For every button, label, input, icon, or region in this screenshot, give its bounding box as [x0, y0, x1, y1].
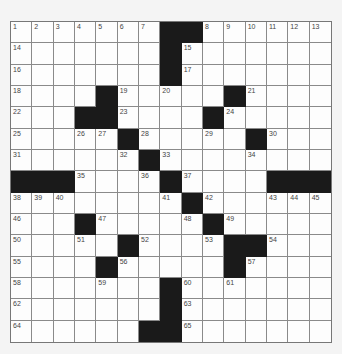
grid-cell[interactable] [54, 278, 75, 299]
grid-cell[interactable]: 41 [160, 193, 181, 214]
grid-cell[interactable] [246, 65, 267, 86]
grid-cell[interactable] [182, 257, 203, 278]
grid-cell[interactable] [96, 193, 117, 214]
grid-cell[interactable] [54, 86, 75, 107]
grid-cell[interactable]: 12 [288, 22, 309, 43]
grid-cell[interactable] [310, 278, 331, 299]
grid-cell[interactable]: 18 [11, 86, 32, 107]
grid-cell[interactable] [288, 214, 309, 235]
grid-cell[interactable]: 60 [182, 278, 203, 299]
grid-cell[interactable] [32, 107, 53, 128]
grid-cell[interactable]: 61 [224, 278, 245, 299]
grid-cell[interactable]: 53 [203, 235, 224, 256]
grid-cell[interactable] [288, 107, 309, 128]
grid-cell[interactable] [118, 43, 139, 64]
grid-cell[interactable] [203, 65, 224, 86]
grid-cell[interactable] [267, 214, 288, 235]
grid-cell[interactable] [32, 257, 53, 278]
grid-cell[interactable] [118, 65, 139, 86]
grid-cell[interactable] [118, 214, 139, 235]
grid-cell[interactable] [54, 43, 75, 64]
grid-cell[interactable] [288, 321, 309, 342]
grid-cell[interactable] [139, 193, 160, 214]
grid-cell[interactable] [96, 171, 117, 192]
grid-cell[interactable] [139, 299, 160, 320]
grid-cell[interactable] [224, 150, 245, 171]
grid-cell[interactable]: 1 [11, 22, 32, 43]
grid-cell[interactable]: 45 [310, 193, 331, 214]
grid-cell[interactable] [224, 299, 245, 320]
grid-cell[interactable] [267, 86, 288, 107]
grid-cell[interactable] [54, 235, 75, 256]
grid-cell[interactable] [310, 43, 331, 64]
grid-cell[interactable]: 27 [96, 129, 117, 150]
grid-cell[interactable] [224, 43, 245, 64]
grid-cell[interactable] [32, 235, 53, 256]
grid-cell[interactable] [182, 86, 203, 107]
grid-cell[interactable] [246, 107, 267, 128]
grid-cell[interactable] [267, 107, 288, 128]
grid-cell[interactable]: 9 [224, 22, 245, 43]
grid-cell[interactable] [224, 171, 245, 192]
grid-cell[interactable] [139, 278, 160, 299]
grid-cell[interactable] [203, 321, 224, 342]
grid-cell[interactable]: 6 [118, 22, 139, 43]
grid-cell[interactable] [54, 107, 75, 128]
grid-cell[interactable]: 13 [310, 22, 331, 43]
grid-cell[interactable]: 35 [75, 171, 96, 192]
grid-cell[interactable] [75, 43, 96, 64]
grid-cell[interactable] [139, 65, 160, 86]
grid-cell[interactable] [182, 235, 203, 256]
grid-cell[interactable]: 4 [75, 22, 96, 43]
grid-cell[interactable] [54, 129, 75, 150]
grid-cell[interactable]: 47 [96, 214, 117, 235]
grid-cell[interactable] [54, 214, 75, 235]
grid-cell[interactable] [32, 65, 53, 86]
grid-cell[interactable] [310, 321, 331, 342]
grid-cell[interactable] [96, 235, 117, 256]
grid-cell[interactable]: 33 [160, 150, 181, 171]
grid-cell[interactable]: 28 [139, 129, 160, 150]
grid-cell[interactable] [96, 43, 117, 64]
grid-cell[interactable]: 21 [246, 86, 267, 107]
grid-cell[interactable] [139, 257, 160, 278]
grid-cell[interactable]: 24 [224, 107, 245, 128]
grid-cell[interactable] [32, 43, 53, 64]
grid-cell[interactable] [267, 257, 288, 278]
grid-cell[interactable] [246, 214, 267, 235]
grid-cell[interactable] [32, 299, 53, 320]
grid-cell[interactable]: 29 [203, 129, 224, 150]
grid-cell[interactable] [75, 193, 96, 214]
grid-cell[interactable] [160, 257, 181, 278]
grid-cell[interactable]: 7 [139, 22, 160, 43]
grid-cell[interactable] [96, 321, 117, 342]
grid-cell[interactable] [160, 214, 181, 235]
grid-cell[interactable]: 31 [11, 150, 32, 171]
grid-cell[interactable] [246, 278, 267, 299]
grid-cell[interactable] [246, 321, 267, 342]
grid-cell[interactable] [288, 257, 309, 278]
grid-cell[interactable] [246, 299, 267, 320]
grid-cell[interactable] [310, 65, 331, 86]
grid-cell[interactable] [224, 129, 245, 150]
grid-cell[interactable] [288, 43, 309, 64]
grid-cell[interactable] [75, 257, 96, 278]
grid-cell[interactable] [267, 321, 288, 342]
grid-cell[interactable] [118, 299, 139, 320]
grid-cell[interactable] [160, 235, 181, 256]
grid-cell[interactable] [203, 171, 224, 192]
grid-cell[interactable] [224, 321, 245, 342]
grid-cell[interactable] [310, 150, 331, 171]
grid-cell[interactable] [32, 321, 53, 342]
grid-cell[interactable]: 36 [139, 171, 160, 192]
grid-cell[interactable]: 59 [96, 278, 117, 299]
grid-cell[interactable] [54, 321, 75, 342]
grid-cell[interactable]: 37 [182, 171, 203, 192]
grid-cell[interactable]: 57 [246, 257, 267, 278]
grid-cell[interactable] [267, 299, 288, 320]
grid-cell[interactable]: 10 [246, 22, 267, 43]
grid-cell[interactable]: 30 [267, 129, 288, 150]
grid-cell[interactable] [96, 65, 117, 86]
grid-cell[interactable]: 48 [182, 214, 203, 235]
grid-cell[interactable]: 55 [11, 257, 32, 278]
